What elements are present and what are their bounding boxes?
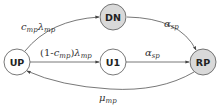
node-up-label: UP — [10, 57, 25, 68]
node-rp-label: RP — [196, 57, 210, 68]
node-u1-label: U1 — [106, 57, 120, 68]
edge-label-u1-rp: αsp — [145, 47, 160, 60]
node-dn: DN — [100, 4, 126, 30]
edge-label-up-u1: (1-cmp)λmp — [40, 47, 92, 60]
edge-label-dn-rp: αsp — [164, 18, 179, 31]
edge-label-rp-up: μmp — [99, 92, 117, 105]
node-up: UP — [4, 49, 30, 75]
edge-label-up-dn: cmpλmp — [21, 21, 56, 34]
edge-dn-to-rp — [127, 17, 196, 50]
state-transition-diagram: cmpλmp (1-cmp)λmp αsp αsp μmp DN UP U1 R… — [0, 0, 220, 105]
edge-up-to-dn — [25, 17, 99, 51]
node-u1: U1 — [100, 49, 126, 75]
node-rp: RP — [190, 49, 216, 75]
node-dn-label: DN — [105, 12, 121, 23]
